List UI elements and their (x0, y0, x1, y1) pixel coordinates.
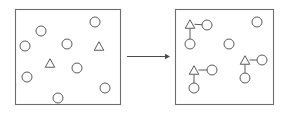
node-circle-L10[interactable] (100, 83, 110, 93)
node-circle-R10[interactable] (207, 65, 217, 75)
left-panel (16, 10, 121, 105)
node-circle-L9[interactable] (53, 93, 63, 103)
right-panel (176, 10, 274, 105)
node-circle-L7[interactable] (22, 72, 32, 82)
node-circle-L3[interactable] (90, 17, 100, 27)
node-circle-R5[interactable] (224, 39, 234, 49)
node-circle-R3[interactable] (185, 39, 195, 49)
transformation-arrow (127, 54, 170, 59)
node-circle-L8[interactable] (72, 63, 82, 73)
node-circle-R7[interactable] (257, 55, 267, 65)
node-circle-L4[interactable] (62, 39, 72, 49)
node-circle-R2[interactable] (202, 20, 212, 30)
node-circle-R8[interactable] (240, 73, 250, 83)
node-circle-L2[interactable] (20, 41, 30, 51)
diagram-canvas (0, 0, 283, 114)
node-circle-L1[interactable] (36, 26, 46, 36)
shape-transformation-diagram (0, 0, 283, 114)
node-circle-R11[interactable] (189, 83, 199, 93)
transform-arrow-head (165, 54, 170, 59)
node-circle-R4[interactable] (252, 17, 262, 27)
